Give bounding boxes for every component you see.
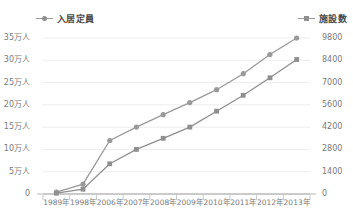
x-axis-tick-label: 2011年 — [230, 199, 256, 207]
series-line-capacity — [56, 38, 296, 192]
y-axis-left-tick-label: 20万人 — [4, 101, 30, 109]
y-axis-left-tick-label: 10万人 — [4, 145, 30, 153]
y-axis-left: 05万人10万人15万人20万人25万人30万人35万人 — [0, 0, 38, 221]
y-axis-left-tick-label: 35万人 — [4, 34, 30, 42]
x-axis: 1989年1998年2006年2007年2008年2009年2010年2011年… — [0, 199, 353, 213]
data-point — [187, 125, 192, 130]
data-point — [294, 57, 299, 62]
x-axis-tick-label: 2012年 — [257, 199, 283, 207]
data-point — [161, 136, 166, 141]
chart-container: 入居定員 施設数 05万人10万人15万人20万人25万人30万人35万人 01… — [0, 0, 353, 221]
data-point — [187, 100, 192, 105]
y-axis-right: 01400280042005600700084009800 — [313, 0, 353, 221]
y-axis-right-tick-label: 7000 — [322, 79, 342, 87]
y-axis-left-tick-label: 0 — [25, 190, 30, 198]
x-axis-tick-label: 2009年 — [177, 199, 203, 207]
y-axis-right-tick-label: 5600 — [322, 101, 342, 109]
x-axis-tick-label: 1998年 — [70, 199, 96, 207]
y-axis-left-tick-label: 5万人 — [9, 168, 30, 176]
data-point — [80, 182, 85, 187]
x-axis-tick-label: 2007年 — [123, 199, 149, 207]
y-axis-right-tick-label: 4200 — [322, 123, 342, 131]
data-point — [107, 138, 112, 143]
x-axis-tick-label: 2006年 — [97, 199, 123, 207]
y-axis-right-tick-label: 2800 — [322, 145, 342, 153]
x-axis-tick-label: 2010年 — [204, 199, 230, 207]
data-point — [241, 93, 246, 98]
y-axis-left-tick-label: 15万人 — [4, 123, 30, 131]
data-point — [81, 187, 86, 192]
data-point — [268, 75, 273, 80]
data-point — [107, 161, 112, 166]
x-axis-tick-label: 2013年 — [284, 199, 310, 207]
x-axis-tick-label: 2008年 — [150, 199, 176, 207]
data-point — [214, 109, 219, 114]
chart-plot-area — [0, 0, 353, 221]
y-axis-right-tick-label: 0 — [322, 190, 327, 198]
series-line-facilities — [56, 60, 296, 194]
data-point — [214, 87, 219, 92]
data-point — [294, 35, 299, 40]
y-axis-right-tick-label: 1400 — [322, 168, 342, 176]
data-point — [134, 147, 139, 152]
data-point — [54, 191, 59, 196]
data-point — [161, 112, 166, 117]
data-point — [134, 125, 139, 130]
y-axis-right-tick-label: 9800 — [322, 34, 342, 42]
y-axis-right-tick-label: 8400 — [322, 56, 342, 64]
x-axis-tick-label: 1989年 — [43, 199, 69, 207]
y-axis-left-tick-label: 30万人 — [4, 56, 30, 64]
data-point — [241, 71, 246, 76]
y-axis-left-tick-label: 25万人 — [4, 79, 30, 87]
data-point — [267, 52, 272, 57]
